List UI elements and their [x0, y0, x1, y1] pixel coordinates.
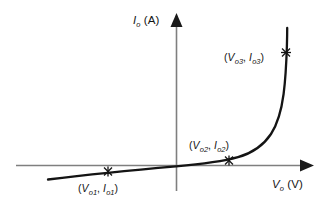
x-axis-unit: (V) [287, 178, 303, 190]
x-axis-symbol: V [272, 178, 280, 190]
y-axis-unit: (A) [144, 14, 160, 26]
iv-characteristic-figure: Io (A) Vo (V) (Vo1, Io1) (Vo2, Io2) (Vo3… [0, 0, 322, 203]
y-axis-subscript: o [136, 20, 140, 29]
y-axis-arrowhead [171, 13, 183, 27]
point-1-label: (Vo1, Io1) [78, 183, 118, 194]
y-axis-label: Io (A) [133, 15, 159, 27]
point-3-label: (Vo3, Io3) [224, 52, 264, 63]
x-axis-label: Vo (V) [272, 179, 303, 191]
x-axis-arrowhead [300, 160, 314, 172]
x-axis-subscript: o [280, 184, 284, 193]
point-2-label: (Vo2, Io2) [189, 140, 229, 151]
figure-canvas [0, 0, 322, 203]
